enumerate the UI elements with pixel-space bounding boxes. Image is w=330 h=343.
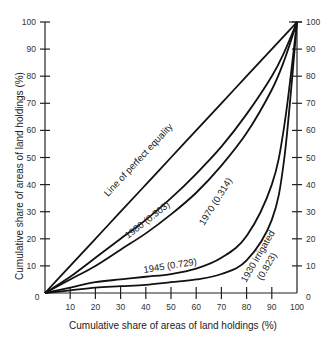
x-tick-label: 100 — [290, 302, 304, 312]
y-tick-label-right: 80 — [306, 71, 316, 81]
x-tick-label: 80 — [242, 302, 252, 312]
y-tick-label-right: 100 — [306, 17, 320, 27]
y-tick-label: 50 — [27, 153, 37, 163]
x-axis-title: Cumulative share of areas of land holdin… — [69, 320, 277, 331]
y-tick-label: 100 — [22, 17, 36, 27]
y-tick-label-right: 30 — [306, 207, 316, 217]
y-tick-label-right: 10 — [306, 261, 316, 271]
x-tick-label: 70 — [217, 302, 227, 312]
origin-zero-left: 0 — [35, 292, 40, 302]
x-tick-label: 30 — [116, 302, 126, 312]
left-y-ticks: 102030405060708090100 — [22, 17, 50, 271]
lorenz-curve-chart: 102030405060708090100 010203040506070809… — [0, 0, 330, 343]
y-tick-label-right: 40 — [306, 180, 316, 190]
x-tick-label: 60 — [191, 302, 201, 312]
y-tick-label-right: 20 — [306, 234, 316, 244]
y-tick-label-right: 70 — [306, 98, 316, 108]
x-tick-label: 40 — [141, 302, 151, 312]
y-tick-label: 20 — [27, 234, 37, 244]
y-tick-label: 60 — [27, 125, 37, 135]
y-tick-label: 80 — [27, 71, 37, 81]
x-tick-label: 10 — [65, 302, 75, 312]
x-ticks: 102030405060708090100 — [65, 287, 304, 312]
y-tick-label: 70 — [27, 98, 37, 108]
label-perfect-equality: Line of perfect equality — [101, 121, 174, 199]
label-1970: 1970 (0.314) — [196, 176, 234, 228]
y-axis-title: Cumulative share of areas of land holdin… — [14, 72, 25, 280]
y-tick-label-right: 50 — [306, 153, 316, 163]
y-tick-label: 40 — [27, 180, 37, 190]
x-tick-label: 90 — [267, 302, 277, 312]
y-tick-label: 10 — [27, 261, 37, 271]
y-tick-label-right: 0 — [306, 292, 311, 302]
label-1945: 1945 (0.729) — [143, 256, 198, 275]
y-tick-label-right: 90 — [306, 44, 316, 54]
y-tick-label: 90 — [27, 44, 37, 54]
y-tick-label-right: 60 — [306, 125, 316, 135]
x-tick-label: 20 — [91, 302, 101, 312]
x-tick-label: 50 — [166, 302, 176, 312]
y-tick-label: 30 — [27, 207, 37, 217]
